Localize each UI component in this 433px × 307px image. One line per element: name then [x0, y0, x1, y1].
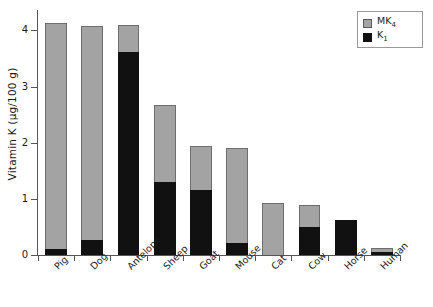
bar-mouse: [226, 8, 248, 255]
y-tick-label-1: 1: [14, 194, 28, 204]
legend-label-mk4: MK4: [377, 16, 396, 30]
y-tick-label-3: 3: [14, 82, 28, 92]
y-tick-mark-1: [31, 199, 37, 200]
bar-segment-mk4-goat: [190, 146, 212, 191]
y-tick-mark-4: [31, 30, 37, 31]
x-tick-mark-7: [291, 256, 292, 261]
bar-horse: [335, 8, 357, 255]
x-tick-mark-0: [38, 256, 39, 261]
x-tick-mark-2: [110, 256, 111, 261]
legend-swatch-mk4-icon: [363, 19, 372, 28]
legend-item-mk4: MK4: [363, 16, 417, 30]
bar-cow: [299, 8, 321, 255]
bar-segment-mk4-dog: [81, 26, 103, 240]
bar-goat: [190, 8, 212, 255]
bar-segment-k1-antelope: [118, 52, 140, 255]
y-tick-mark-3: [31, 87, 37, 88]
bar-segment-mk4-cat: [262, 203, 284, 255]
bar-segment-k1-cow: [299, 227, 321, 255]
y-tick-label-4: 4: [14, 25, 28, 35]
vitamin-k-bar-chart: Vitamin K (µg/100 g) 01234 PigDogAntelop…: [0, 0, 433, 307]
legend-swatch-k1-icon: [363, 33, 372, 42]
y-tick-mark-2: [31, 143, 37, 144]
y-tick-label-0: 0: [14, 250, 28, 260]
bar-segment-k1-horse: [335, 220, 357, 255]
bar-dog: [81, 8, 103, 255]
bar-cat: [262, 8, 284, 255]
bar-segment-mk4-cow: [299, 205, 321, 227]
x-label-pig: Pig: [52, 254, 70, 272]
bar-segment-k1-pig: [45, 249, 67, 255]
bar-segment-mk4-antelope: [118, 25, 140, 52]
y-tick-mark-0: [31, 255, 37, 256]
legend-label-k1: K1: [377, 30, 388, 44]
x-tick-mark-1: [74, 256, 75, 261]
bar-antelope: [118, 8, 140, 255]
bar-segment-mk4-pig: [45, 23, 67, 249]
legend: MK4 K1: [357, 11, 423, 48]
bar-segment-k1-goat: [190, 190, 212, 255]
legend-item-k1: K1: [363, 30, 417, 44]
bar-segment-mk4-sheep: [154, 105, 176, 182]
bar-pig: [45, 8, 67, 255]
bar-sheep: [154, 8, 176, 255]
bar-segment-mk4-mouse: [226, 148, 248, 243]
y-tick-label-2: 2: [14, 138, 28, 148]
plot-area: [38, 8, 400, 255]
